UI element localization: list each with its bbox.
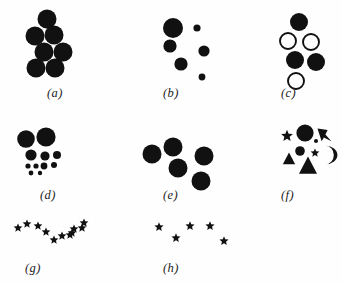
filled-circle-dot [192, 172, 211, 191]
panel-label-f: (f) [281, 188, 294, 203]
panel-label-e: (e) [163, 188, 178, 203]
filled-circle-dot [163, 18, 183, 38]
star-icon [42, 227, 51, 235]
filled-circle-dot [40, 151, 49, 160]
filled-circle-dot [198, 45, 209, 56]
filled-circle-dot [27, 59, 46, 78]
figure-root: (a)(b)(c)(d)(e)(f)(g)(h) [0, 0, 342, 284]
star-icon [14, 223, 23, 231]
filled-circle-dot [295, 146, 305, 156]
filled-circle-dot [164, 138, 183, 157]
triangle-shape [299, 157, 317, 174]
star-icon [281, 130, 293, 141]
filled-circle-dot [286, 51, 304, 69]
panel-label-c: (c) [281, 86, 296, 101]
filled-circle-dot [33, 163, 38, 168]
panel-e [143, 138, 214, 191]
panel-label-g: (g) [25, 261, 41, 276]
filled-circle-dot [51, 162, 57, 168]
filled-circle-dot [38, 171, 42, 175]
filled-circle-dot [41, 163, 48, 170]
open-circle-dot [280, 33, 296, 49]
filled-circle-dot [46, 59, 65, 78]
panel-label-a: (a) [47, 86, 63, 101]
filled-circle-dot [169, 159, 188, 178]
star-icon [171, 233, 180, 242]
panel-h [154, 221, 228, 245]
filled-circle-dot [26, 27, 45, 46]
panel-a [26, 10, 73, 78]
filled-circle-dot [163, 39, 176, 52]
filled-circle-dot [290, 13, 308, 31]
filled-circle-dot [174, 57, 187, 70]
triangle-shape [283, 153, 295, 165]
filled-circle-dot [199, 74, 206, 81]
filled-circle-dot [45, 26, 64, 45]
panel-label-h: (h) [163, 261, 179, 276]
star-icon [219, 236, 228, 245]
star-icon [34, 221, 43, 229]
panel-b [163, 18, 210, 80]
dot-pattern-figure [0, 0, 342, 284]
chevron-shape [318, 128, 332, 141]
filled-circle-dot [143, 145, 162, 164]
filled-circle-dot [29, 171, 34, 176]
star-icon [311, 148, 320, 156]
panel-f [281, 124, 337, 173]
star-icon [154, 222, 163, 231]
star-icon [58, 231, 67, 239]
filled-circle-dot [314, 139, 318, 143]
panel-label-d: (d) [40, 188, 56, 203]
filled-circle-dot [307, 53, 325, 71]
filled-circle-dot [25, 149, 36, 160]
star-icon [185, 221, 194, 230]
filled-circle-dot [17, 130, 35, 148]
crescent-shape [326, 146, 338, 164]
filled-circle-dot [53, 151, 61, 159]
star-icon [80, 218, 89, 226]
filled-circle-dot [36, 127, 55, 146]
panel-d [17, 127, 61, 175]
filled-circle-dot [25, 163, 30, 168]
open-circle-dot [303, 34, 319, 50]
star-icon [23, 219, 32, 227]
star-icon [50, 235, 59, 243]
filled-circle-dot [193, 24, 200, 31]
filled-circle-dot [296, 124, 313, 141]
panel-g [14, 218, 89, 243]
panel-label-b: (b) [163, 86, 179, 101]
star-icon [205, 221, 214, 230]
panel-c [280, 13, 325, 89]
filled-circle-dot [195, 147, 214, 166]
